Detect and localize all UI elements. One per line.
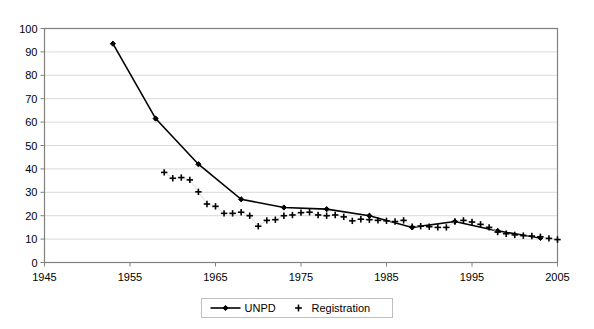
x-tick-label: 1995 [460,271,484,283]
y-tick-label: 0 [31,257,37,269]
y-tick-label: 100 [19,23,37,35]
y-tick-label: 40 [25,163,37,175]
y-tick-label: 70 [25,93,37,105]
x-tick-label: 1965 [203,271,227,283]
x-tick-label: 1975 [289,271,313,283]
legend-unpd-label: UNPD [245,302,276,314]
x-tick-label: 1955 [118,271,142,283]
chart-legend: UNPDRegistration [202,299,393,318]
chart-container: 0102030405060708090100 19451955196519751… [0,0,594,329]
x-tick-label: 2005 [545,271,569,283]
y-tick-label: 30 [25,186,37,198]
legend-registration-label: Registration [312,302,371,314]
y-tick-label: 90 [25,46,37,58]
y-tick-label: 10 [25,233,37,245]
y-tick-label: 60 [25,116,37,128]
x-tick-label: 1985 [374,271,398,283]
y-tick-label: 50 [25,140,37,152]
x-tick-label: 1945 [32,271,56,283]
y-tick-label: 20 [25,210,37,222]
line-chart: 0102030405060708090100 19451955196519751… [0,0,594,329]
y-tick-label: 80 [25,69,37,81]
